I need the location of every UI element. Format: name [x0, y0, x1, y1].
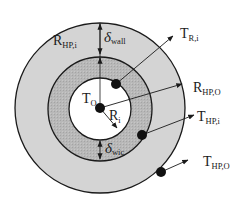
label-t-hp-i: THP,i [197, 109, 221, 126]
heat-pipe-diagram: RHP,i δwall TR,i RHP,O TO Ri THP,i δwic … [0, 0, 247, 211]
label-t-r-i: TR,i [180, 26, 199, 43]
node-t-r-i [111, 79, 121, 89]
node-t-hp-i [137, 130, 147, 140]
node-t-hp-o [156, 167, 166, 177]
label-r-hp-o: RHP,O [193, 80, 221, 97]
label-t-hp-o: THP,O [203, 154, 230, 171]
